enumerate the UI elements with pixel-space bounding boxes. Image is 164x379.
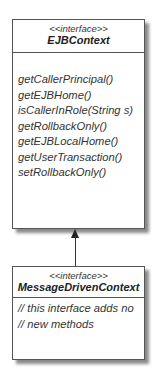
method-item: setRollbackOnly() xyxy=(18,165,144,181)
interface-name: MessageDrivenContext xyxy=(13,281,144,293)
comment-line: // this interface adds no xyxy=(18,301,144,317)
method-item: getCallerPrincipal() xyxy=(18,72,144,88)
method-item: getRollbackOnly() xyxy=(18,119,144,135)
method-item: isCallerInRole(String s) xyxy=(18,103,144,119)
method-list: getCallerPrincipal() getEJBHome() isCall… xyxy=(13,53,144,181)
stereotype-label: <<interface>> xyxy=(13,270,144,281)
ejbcontext-interface-box: <<interface>> EJBContext getCallerPrinci… xyxy=(12,19,145,229)
method-item: getEJBLocalHome() xyxy=(18,134,144,150)
messagedrivencontext-header: <<interface>> MessageDrivenContext xyxy=(13,267,144,298)
comment-list: // this interface adds no // new methods xyxy=(13,298,144,332)
ejbcontext-header: <<interface>> EJBContext xyxy=(13,20,144,53)
interface-name: EJBContext xyxy=(13,34,144,46)
comment-line: // new methods xyxy=(18,317,144,333)
messagedrivencontext-interface-box: <<interface>> MessageDrivenContext // th… xyxy=(12,266,145,360)
method-item: getUserTransaction() xyxy=(18,150,144,166)
stereotype-label: <<interface>> xyxy=(13,23,144,34)
method-item: getEJBHome() xyxy=(18,88,144,104)
inheritance-line xyxy=(75,236,76,266)
